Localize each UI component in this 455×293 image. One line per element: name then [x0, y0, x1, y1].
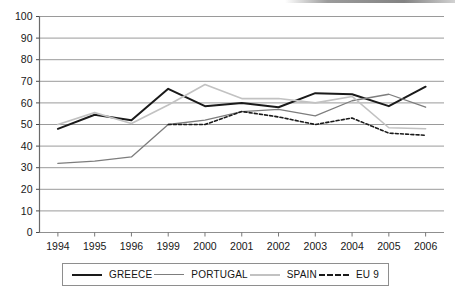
legend-swatch-greece-icon — [72, 274, 102, 276]
x-axis-tick-label: 1996 — [120, 240, 144, 252]
series-line-spain — [58, 85, 426, 129]
x-axis-tick-label: 2000 — [193, 240, 217, 252]
x-axis-tick-label: 2001 — [230, 240, 254, 252]
legend-label: EU 9 — [356, 269, 379, 280]
y-axis-tick-label: 40 — [21, 140, 33, 152]
x-axis-tick-label: 1994 — [46, 240, 70, 252]
gridlines-group — [40, 17, 445, 233]
y-axis-tick-label: 0 — [27, 226, 33, 238]
series-line-greece — [58, 87, 426, 129]
series-line-eu-9 — [168, 112, 425, 136]
legend-swatch-eu-9-icon — [319, 274, 349, 276]
legend-item-greece[interactable]: GREECE — [71, 269, 153, 280]
legend-label: SPAIN — [287, 269, 317, 280]
legend-label: GREECE — [109, 269, 152, 280]
legend-item-portugal[interactable]: PORTUGAL — [153, 269, 248, 280]
axes-group — [36, 17, 426, 237]
x-axis-tick-label: 1999 — [157, 240, 181, 252]
x-axis-tick-label: 2006 — [414, 240, 438, 252]
x-axis-tick-label: 2003 — [304, 240, 328, 252]
y-axis-tick-label: 50 — [21, 118, 33, 130]
chart-legend: GREECEPORTUGALSPAINEU 9 — [62, 263, 389, 286]
legend-item-eu-9[interactable]: EU 9 — [318, 269, 380, 280]
y-axis-tick-label: 20 — [21, 183, 33, 195]
legend-label: PORTUGAL — [191, 269, 247, 280]
y-axis-tick-label: 10 — [21, 205, 33, 217]
y-axis-tick-label: 100 — [15, 10, 33, 22]
y-axis-tick-label: 30 — [21, 161, 33, 173]
x-axis-tick-label: 2005 — [377, 240, 401, 252]
x-axis-tick-label: 2004 — [340, 240, 364, 252]
y-axis-tick-label: 80 — [21, 53, 33, 65]
line-chart: 0102030405060708090100 19941995199619992… — [0, 0, 455, 293]
chart-plot-area: 0102030405060708090100 19941995199619992… — [0, 0, 455, 293]
legend-item-spain[interactable]: SPAIN — [249, 269, 318, 280]
y-axis-labels-group: 0102030405060708090100 — [15, 10, 33, 238]
series-line-portugal — [58, 94, 426, 163]
y-axis-tick-label: 70 — [21, 75, 33, 87]
y-axis-tick-label: 60 — [21, 97, 33, 109]
x-axis-labels-group: 1994199519961999200020012002200320042005… — [46, 240, 437, 252]
scan-artifact-band — [285, 0, 455, 3]
data-series-group — [58, 85, 426, 164]
x-axis-tick-label: 2002 — [267, 240, 291, 252]
y-axis-tick-label: 90 — [21, 32, 33, 44]
legend-swatch-spain-icon — [250, 274, 280, 276]
legend-swatch-portugal-icon — [154, 274, 184, 275]
x-axis-tick-label: 1995 — [83, 240, 107, 252]
